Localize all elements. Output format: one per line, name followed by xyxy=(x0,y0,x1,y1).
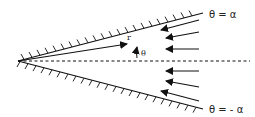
inflow-arrow xyxy=(161,20,199,30)
wedge-flow-diagram: r θ θ = α θ = - α xyxy=(0,0,255,117)
inflow-arrow xyxy=(166,32,199,38)
radial-label: r xyxy=(127,33,131,42)
angle-arc xyxy=(137,47,138,58)
upper-wall xyxy=(18,11,203,62)
upper-wall-label: θ = α xyxy=(209,9,237,20)
inflow-arrow xyxy=(166,81,199,87)
lower-wall xyxy=(17,61,203,113)
lower-wall-label: θ = - α xyxy=(209,104,244,115)
angle-label: θ xyxy=(141,49,146,58)
